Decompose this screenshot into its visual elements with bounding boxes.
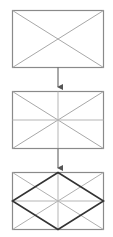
step-2-center-lines (13, 92, 104, 149)
step-3-rhombus (13, 173, 104, 230)
construction-diagram (0, 0, 113, 237)
step-1-rectangle-diagonals (13, 11, 104, 68)
